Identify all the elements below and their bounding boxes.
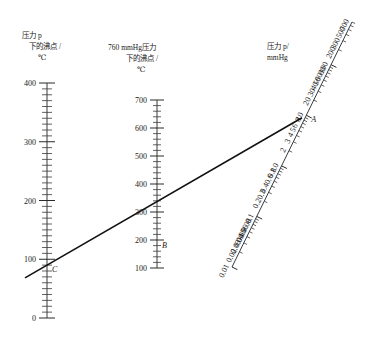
point-b-label: B (162, 241, 167, 250)
left-tick-label: 100 (24, 255, 36, 264)
left-tick-label: 0 (32, 314, 36, 323)
right-tick-label: 0.01 (217, 263, 231, 280)
point-c-label: C (52, 265, 58, 274)
left-tick-label: 200 (24, 197, 36, 206)
right-axis-title-line2: mmHg (267, 53, 288, 62)
middle-axis-title-line2: 下的沸点 / (126, 53, 159, 63)
left-axis-title-line3: ℃ (38, 53, 46, 62)
middle-tick-label: 400 (135, 180, 147, 189)
middle-scale: 700600500400300200100 (135, 96, 164, 273)
middle-tick-label: 600 (135, 124, 147, 133)
nomogram-figure: 压力 p 下的沸点 / ℃ 760 mmHg压力 下的沸点 / ℃ 压力 p/ … (0, 0, 367, 342)
left-tick-label: 300 (24, 138, 36, 147)
middle-axis-title-line3: ℃ (137, 65, 145, 74)
right-axis-title-line1: 压力 p/ (267, 41, 290, 51)
middle-tick-label: 500 (135, 152, 147, 161)
point-markers: CBA (52, 115, 316, 274)
middle-axis-title-line1: 760 mmHg压力 (108, 42, 156, 52)
right-tick-label: 2 (278, 146, 288, 154)
right-tick-label: 3 (283, 137, 293, 145)
nomogram-canvas: 压力 p 下的沸点 / ℃ 760 mmHg压力 下的沸点 / ℃ 压力 p/ … (0, 0, 367, 342)
middle-tick-label: 200 (135, 236, 147, 245)
left-axis-title-line2: 下的沸点 / (29, 41, 62, 51)
middle-tick-label: 100 (135, 264, 147, 273)
left-axis-title-line1: 压力 p (22, 30, 42, 40)
middle-tick-label: 700 (135, 96, 147, 105)
left-tick-label: 400 (24, 79, 36, 88)
left-scale: 4003002001000 (24, 79, 55, 323)
point-a-label: A (310, 115, 316, 124)
